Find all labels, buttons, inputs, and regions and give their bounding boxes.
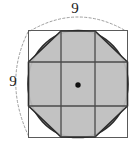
top-dimension-arc	[30, 17, 126, 31]
left-side-length-label: 9	[2, 74, 24, 89]
top-side-length-label: 9	[62, 1, 88, 16]
geometry-diagram	[0, 0, 136, 146]
geometry-figure: 9 9	[0, 0, 136, 146]
center-point-dot	[75, 82, 80, 87]
